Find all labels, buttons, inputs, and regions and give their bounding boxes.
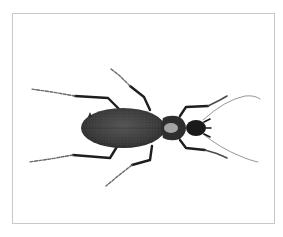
beetle-pronotum (162, 116, 187, 141)
beetle-elytra (81, 108, 165, 148)
beetle-head (186, 119, 211, 137)
leg-mid-upper (111, 69, 150, 110)
leg-rear-lower (29, 145, 118, 162)
leg-front-upper (180, 96, 227, 116)
beetle-illustration (0, 0, 283, 237)
leg-front-lower (180, 140, 227, 158)
leg-rear-upper (31, 89, 120, 110)
